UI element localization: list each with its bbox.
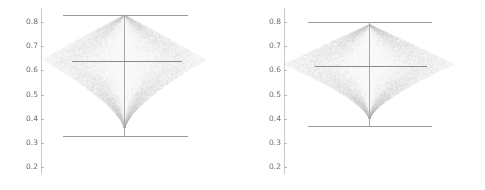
y-tick-mark: [41, 22, 44, 23]
median-line-left: [72, 61, 182, 62]
whisker-cap-upper-left: [63, 15, 188, 16]
y-tick-mark: [41, 119, 44, 120]
whisker-cap-lower-right: [308, 126, 432, 127]
range-line-right: [369, 22, 370, 126]
y-tick-mark: [284, 46, 287, 47]
y-tick-label: 0.3: [257, 139, 281, 147]
y-tick-mark: [284, 143, 287, 144]
plot-area-right: 0.80.70.60.50.40.30.2: [243, 0, 485, 190]
whisker-cap-upper-right: [308, 22, 432, 23]
y-tick-label: 0.5: [14, 91, 38, 99]
plot-area-left: 0.80.70.60.50.40.30.2: [0, 0, 242, 190]
y-tick-mark: [284, 95, 287, 96]
y-axis-spine-left: [41, 8, 42, 174]
violin-panel-right: 0.80.70.60.50.40.30.2: [243, 0, 485, 190]
y-tick-mark: [41, 95, 44, 96]
y-tick-label: 0.7: [257, 42, 281, 50]
y-tick-label: 0.7: [14, 42, 38, 50]
y-tick-label: 0.6: [257, 66, 281, 74]
whisker-cap-lower-left: [63, 136, 188, 137]
y-tick-mark: [284, 119, 287, 120]
y-tick-mark: [41, 70, 44, 71]
y-axis-spine-right: [284, 8, 285, 174]
y-tick-label: 0.6: [14, 66, 38, 74]
y-tick-label: 0.8: [257, 18, 281, 26]
y-tick-mark: [284, 167, 287, 168]
y-tick-mark: [41, 46, 44, 47]
y-tick-mark: [41, 167, 44, 168]
y-tick-mark: [41, 143, 44, 144]
y-tick-mark: [284, 22, 287, 23]
violin-panel-left: 0.80.70.60.50.40.30.2: [0, 0, 242, 190]
range-line-left: [124, 15, 125, 136]
y-tick-label: 0.2: [257, 163, 281, 171]
y-tick-label: 0.4: [14, 115, 38, 123]
y-tick-mark: [284, 70, 287, 71]
y-tick-label: 0.3: [14, 139, 38, 147]
y-tick-label: 0.4: [257, 115, 281, 123]
y-tick-label: 0.8: [14, 18, 38, 26]
y-tick-label: 0.2: [14, 163, 38, 171]
y-tick-label: 0.5: [257, 91, 281, 99]
figure-root: 0.80.70.60.50.40.30.2 0.80.70.60.50.40.3…: [0, 0, 485, 190]
median-line-right: [315, 66, 427, 67]
